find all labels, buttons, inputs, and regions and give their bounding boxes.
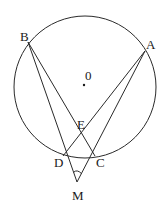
geometry-diagram: B A 0 E D C M	[0, 0, 162, 215]
circle-o	[14, 16, 156, 158]
label-m: M	[72, 188, 84, 203]
label-c: C	[96, 155, 105, 170]
label-d: D	[54, 155, 63, 170]
label-b: B	[20, 29, 29, 44]
label-a: A	[146, 37, 156, 52]
center-point	[83, 84, 85, 86]
label-o: 0	[85, 68, 92, 83]
label-e: E	[77, 117, 85, 132]
angle-m-mark	[74, 171, 82, 174]
